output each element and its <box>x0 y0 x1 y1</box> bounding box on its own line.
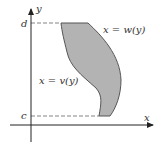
right-curve-label: x = w(y) <box>103 24 145 35</box>
region-diagram: y x d c x = w(y) x = v(y) <box>0 0 162 148</box>
y-axis-label: y <box>35 3 42 14</box>
x-axis-label: x <box>144 112 150 123</box>
lower-bound-label: c <box>21 110 27 121</box>
diagram-svg: y x d c x = w(y) x = v(y) <box>0 0 162 148</box>
upper-bound-label: d <box>21 18 27 29</box>
left-curve-label: x = v(y) <box>39 75 79 86</box>
shaded-region <box>61 23 121 116</box>
